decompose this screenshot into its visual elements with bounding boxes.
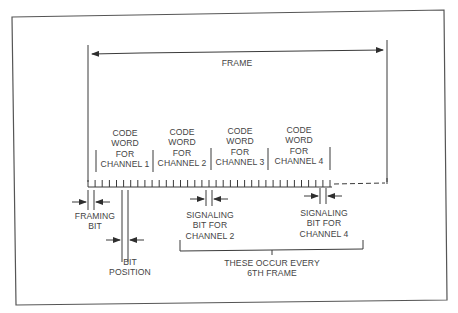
signaling-ch2-marker bbox=[190, 190, 228, 206]
code-word-ch4-label: CODEWORDFORCHANNEL 4 bbox=[268, 125, 330, 167]
signaling-ch4-label: SIGNALINGBIT FORCHANNEL 4 bbox=[289, 208, 359, 239]
frame-label: FRAME bbox=[217, 58, 257, 68]
code-word-ch3-label: CODEWORDFORCHANNEL 3 bbox=[210, 126, 270, 168]
framing-bit-label: FRAMINGBIT bbox=[70, 211, 120, 232]
framing-bit-marker bbox=[72, 190, 110, 210]
signaling-ch2-label: SIGNALINGBIT FORCHANNEL 2 bbox=[175, 210, 245, 241]
code-word-ch2-label: CODEWORDFORCHANNEL 2 bbox=[152, 127, 212, 169]
signaling-ch4-marker bbox=[304, 188, 342, 204]
code-word-ch1-label: CODEWORDFORCHANNEL 1 bbox=[95, 128, 155, 170]
bit-ticks bbox=[88, 180, 330, 187]
signaling-bracket bbox=[180, 240, 363, 255]
bit-position-label: BITPOSITION bbox=[100, 257, 160, 278]
bracket-note-label: THESE OCCUR EVERY6TH FRAME bbox=[222, 258, 322, 279]
